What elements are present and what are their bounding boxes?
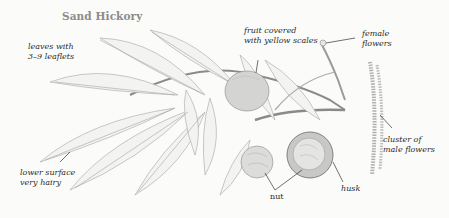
leaflet (203, 98, 216, 175)
leader-female-flowers (326, 38, 355, 43)
male-catkin (370, 62, 375, 175)
label-nut: nut (270, 192, 284, 202)
leaflet (50, 74, 178, 95)
label-male-flowers: cluster of male flowers (383, 135, 435, 154)
plate-title: Sand Hickory (62, 10, 142, 22)
label-leaves: leaves with 3–9 leaflets (28, 42, 74, 61)
leader-fruit (256, 60, 258, 73)
sand-hickory-plate: Sand Hickory leaves with 3–9 leaflets fr… (0, 0, 449, 218)
fruit (225, 71, 269, 111)
nut-drawing (241, 146, 273, 178)
leader-husk (333, 162, 343, 182)
label-fruit: fruit covered with yellow scales (244, 26, 318, 45)
female-flower (320, 40, 326, 46)
male-catkin (377, 65, 382, 170)
husk-inner-nut (293, 138, 325, 170)
label-lower-surface: lower surface very hairy (20, 168, 75, 187)
label-female-flowers: female flowers (362, 29, 392, 48)
label-husk: husk (341, 184, 360, 194)
